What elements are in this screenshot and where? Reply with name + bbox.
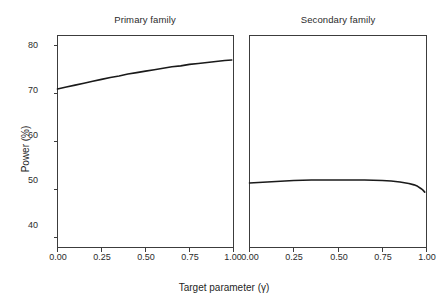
plot-frame-primary (58, 36, 234, 248)
plot-surface (0, 0, 448, 297)
figure-canvas: Primary family Secondary family 80 70 60… (0, 0, 448, 297)
plot-frame-secondary (250, 36, 427, 248)
